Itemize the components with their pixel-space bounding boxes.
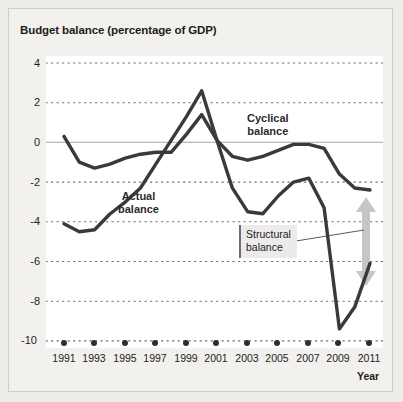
xtick-dot bbox=[366, 340, 372, 346]
xtick-dot bbox=[61, 340, 67, 346]
series-label-actual-line2: balance bbox=[118, 203, 159, 215]
ytick-label: -6 bbox=[12, 255, 40, 267]
series-label-actual-line1: Actual bbox=[122, 190, 156, 202]
series-label-structural: Structural balance bbox=[239, 225, 297, 258]
xtick-label: 2005 bbox=[260, 352, 294, 364]
xtick-label: 2001 bbox=[199, 352, 233, 364]
line-actual-balance bbox=[64, 91, 370, 329]
xtick-label: 1997 bbox=[138, 352, 172, 364]
xtick-label: 2003 bbox=[230, 352, 264, 364]
xtick-label: 2007 bbox=[291, 352, 325, 364]
gridlines bbox=[46, 63, 383, 341]
xtick-label: 1999 bbox=[169, 352, 203, 364]
series-label-structural-line2: balance bbox=[246, 241, 283, 253]
xtick-dot bbox=[305, 340, 311, 346]
xtick-label: 2011 bbox=[352, 352, 386, 364]
line-cyclical-balance bbox=[64, 115, 370, 190]
axis-label-year: Year bbox=[357, 370, 379, 382]
xtick-dot bbox=[152, 340, 158, 346]
xtick-dot bbox=[335, 340, 341, 346]
figure-container: Budget balance (percentage of GDP) bbox=[0, 0, 403, 402]
xtick-dot bbox=[183, 340, 189, 346]
ytick-label: -2 bbox=[12, 176, 40, 188]
series-label-actual: Actual balance bbox=[118, 190, 159, 216]
series-label-structural-line1: Structural bbox=[246, 228, 291, 240]
series-label-cyclical-line1: Cyclical bbox=[247, 112, 289, 124]
xtick-label: 1991 bbox=[47, 352, 81, 364]
xtick-dot bbox=[91, 340, 97, 346]
xtick-label: 2009 bbox=[321, 352, 355, 364]
xtick-label: 1995 bbox=[108, 352, 142, 364]
xtick-dot bbox=[244, 340, 250, 346]
ytick-label: 4 bbox=[12, 57, 40, 69]
xtick-dot bbox=[122, 340, 128, 346]
xtick-label: 1993 bbox=[77, 352, 111, 364]
series-label-cyclical: Cyclical balance bbox=[247, 112, 289, 138]
chart-title: Budget balance (percentage of GDP) bbox=[20, 24, 217, 36]
xtick-dot bbox=[213, 340, 219, 346]
chart-svg bbox=[46, 56, 383, 348]
plot-area bbox=[46, 56, 383, 348]
structural-leader-line bbox=[296, 230, 364, 241]
ytick-label: 2 bbox=[12, 96, 40, 108]
xtick-dot bbox=[274, 340, 280, 346]
ytick-label: -4 bbox=[12, 215, 40, 227]
series-label-cyclical-line2: balance bbox=[247, 125, 288, 137]
ytick-label: -8 bbox=[12, 295, 40, 307]
ytick-label: -10 bbox=[9, 334, 37, 346]
ytick-label: 0 bbox=[12, 136, 40, 148]
